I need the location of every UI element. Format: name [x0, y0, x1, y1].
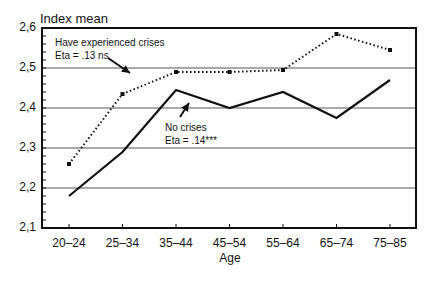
y-tick-label: 2,6 — [4, 20, 36, 34]
series-lines — [67, 32, 392, 196]
x-tick-label: 25–34 — [98, 236, 148, 250]
y-tick-label: 2,1 — [4, 220, 36, 234]
y-tick-label: 2,2 — [4, 180, 36, 194]
x-tick-label: 75–85 — [365, 236, 415, 250]
y-tick-label: 2,5 — [4, 60, 36, 74]
series2-eta: Eta = .14*** — [165, 135, 217, 147]
series2-label: No crises — [165, 122, 207, 134]
x-tick-label: 55–64 — [258, 236, 308, 250]
x-axis-title: Age — [0, 251, 438, 265]
series1-eta: Eta = .13 ns — [55, 50, 109, 62]
x-tick-label: 20–24 — [44, 236, 94, 250]
series-line-2 — [69, 80, 390, 196]
series-line-1 — [69, 34, 390, 164]
x-tick-label: 45–54 — [205, 236, 255, 250]
series1-label: Have experienced crises — [55, 37, 165, 49]
y-tick-label: 2,3 — [4, 140, 36, 154]
y-tick-label: 2,4 — [4, 100, 36, 114]
x-tick-label: 35–44 — [151, 236, 201, 250]
gridlines — [42, 68, 416, 188]
y-axis-title: Index mean — [40, 12, 108, 26]
x-tick-label: 65–74 — [312, 236, 362, 250]
